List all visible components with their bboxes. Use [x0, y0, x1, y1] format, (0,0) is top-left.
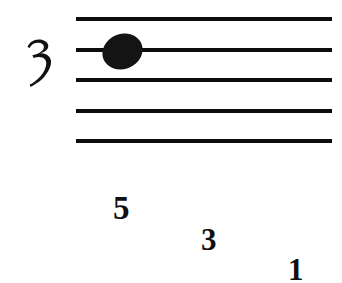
fingering-number-5: 5 — [113, 192, 130, 225]
staff-line-4 — [76, 109, 332, 113]
staff-line-5 — [76, 139, 332, 143]
staff-line-3 — [76, 78, 332, 82]
staff-line-1 — [76, 17, 332, 21]
cursive-three-clef-icon — [20, 34, 64, 90]
notehead — [102, 34, 144, 70]
notehead-ellipse — [97, 28, 148, 76]
music-notation-sheet: 5 3 1 — [0, 0, 342, 283]
fingering-number-3: 3 — [201, 224, 217, 255]
fingering-number-1: 1 — [288, 254, 304, 283]
